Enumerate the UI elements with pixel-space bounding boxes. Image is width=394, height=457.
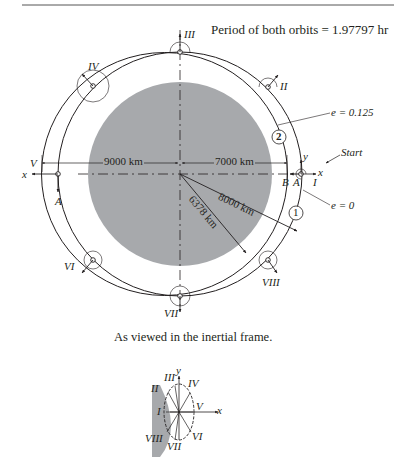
pos-I: I	[313, 176, 317, 188]
pos-I-x: x	[318, 166, 323, 178]
orbit-2-id: 2	[276, 130, 282, 142]
orbit-1-id: 1	[293, 206, 299, 218]
start-label: Start	[341, 146, 362, 158]
dim-7000-label: 7000 km	[214, 155, 255, 167]
inset-IV: IV	[188, 377, 198, 389]
ecc-circle-label: e = 0	[331, 199, 354, 211]
point-A-label: A	[293, 176, 300, 188]
pos-V: V	[30, 157, 37, 169]
caption: As viewed in the inertial frame.	[114, 330, 272, 345]
inset-VIII: VIII	[145, 432, 163, 444]
inset-VI: VI	[192, 430, 202, 442]
point-B-label: B	[282, 176, 289, 188]
dim-9000-label: 9000 km	[103, 155, 144, 167]
inset-x: x	[217, 404, 222, 416]
inset-III: III	[164, 371, 175, 383]
pos-VI: VI	[64, 260, 74, 272]
ecc-ellipse-label: e = 0.125	[331, 106, 374, 118]
point-A-left-label: A	[55, 195, 62, 207]
pos-III: III	[184, 28, 195, 40]
start-arrow	[326, 155, 340, 163]
inset-VII: VII	[167, 440, 181, 452]
inset-II: II	[151, 382, 158, 394]
inset-V: V	[196, 400, 203, 412]
pos-II: II	[280, 80, 287, 92]
pos-VIII: VIII	[262, 276, 280, 288]
inset-y: y	[176, 364, 181, 376]
period-title: Period of both orbits = 1.97797 hr	[211, 22, 388, 38]
pos-VII: VII	[164, 307, 178, 319]
pos-V-x: x	[22, 168, 27, 180]
pos-I-y: y	[303, 150, 308, 162]
pos-IV: IV	[88, 60, 98, 72]
inset-I: I	[157, 405, 161, 417]
